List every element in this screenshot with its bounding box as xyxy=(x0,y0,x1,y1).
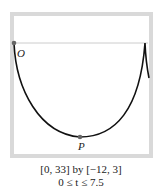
parameter-caption: 0 ≤ t ≤ 7.5 xyxy=(0,176,162,188)
window-caption: [0, 33] by [−12, 3] xyxy=(0,163,162,175)
label-p: P xyxy=(77,140,85,152)
label-o: O xyxy=(17,47,25,59)
point-p xyxy=(78,135,83,140)
point-o xyxy=(12,41,17,46)
viewing-window-frame xyxy=(12,14,151,156)
